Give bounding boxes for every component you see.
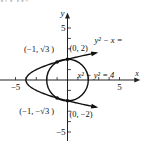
point-label: (0, −2) (70, 109, 93, 119)
point-label: (−1, √3 ) (24, 44, 54, 54)
y-axis-label: y (60, 8, 65, 18)
parabola-arrow (91, 51, 98, 56)
x-tick-label: 5 (117, 82, 122, 92)
parabola-equation-label: y² − x = (94, 35, 123, 45)
intersection-point (66, 99, 70, 103)
intersection-point (55, 96, 59, 100)
point-label: (0, 2) (70, 43, 89, 53)
y-tick-label: 5 (61, 23, 66, 33)
y-tick-label: −5 (56, 127, 66, 137)
x-axis-arrow (134, 78, 140, 83)
intersection-point (55, 60, 59, 64)
x-axis-label: x (134, 69, 139, 78)
axes (0, 12, 140, 141)
circle-equation-label: x² + y² = 4 (76, 70, 115, 80)
intersection-point (66, 57, 70, 61)
chart: −555−5yxy² − x =x² + y² = 4(−1, √3 )(0, … (0, 0, 143, 141)
x-tick-label: −5 (11, 82, 21, 92)
y-axis-arrow (65, 12, 70, 18)
point-label: (−1, −√3 ) (19, 106, 54, 116)
